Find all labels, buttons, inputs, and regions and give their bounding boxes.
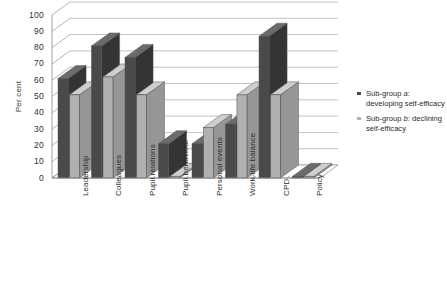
x-axis-tick-label: Work-life balance: [248, 133, 257, 196]
x-axis-tick-label: Policy: [315, 174, 324, 196]
x-axis-tick-label: Personal events: [215, 137, 224, 196]
legend-swatch-icon: [357, 92, 361, 96]
chart-legend: Sub-group a: developing self-efficacySub…: [357, 89, 445, 139]
legend-label: Sub-group a: developing self-efficacy: [366, 89, 445, 108]
x-axis-tick-label: Colleagues: [114, 155, 123, 196]
legend-swatch-icon: [357, 117, 361, 121]
legend-label: Sub-group b: declining self-efficacy: [366, 114, 442, 133]
x-axis-tick-label: Pupil behaviour: [181, 139, 190, 196]
legend-entry: Sub-group b: declining self-efficacy: [357, 114, 445, 133]
x-axis-tick-label: Leadership: [81, 155, 90, 196]
legend-entry: Sub-group a: developing self-efficacy: [357, 89, 445, 108]
bar-chart: Per cent 0102030405060708090100 Leadersh…: [0, 0, 447, 282]
x-axis-tick-label: CPD: [282, 179, 291, 196]
x-axis-tick-label: Pupil relations: [148, 144, 157, 196]
